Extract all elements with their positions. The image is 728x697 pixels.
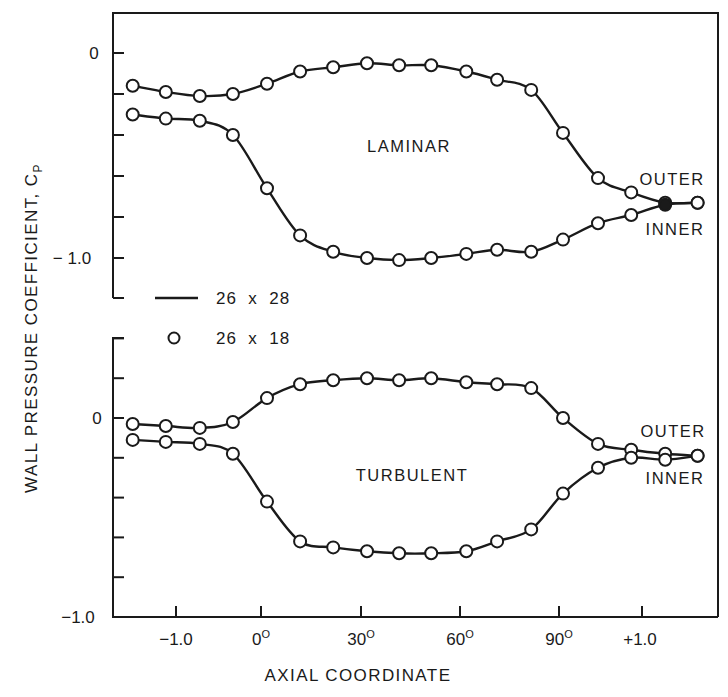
data-point-circle-icon — [160, 86, 172, 98]
bottom-y-label-neg1: −1.0 — [61, 608, 95, 627]
data-point-circle-icon — [659, 454, 671, 466]
top-y-ticks — [113, 53, 124, 258]
x-label-30deg: 30O — [347, 628, 375, 649]
turbulent-inner-curve — [133, 440, 698, 554]
legend-label-circle: 26 x 18 — [216, 329, 290, 348]
data-point-circle-icon — [194, 422, 206, 434]
data-point-circle-icon — [525, 382, 537, 394]
data-point-circle-icon — [327, 61, 339, 73]
data-point-circle-icon — [327, 246, 339, 258]
bottom-outer-label: OUTER — [640, 422, 705, 440]
data-point-circle-icon — [393, 59, 405, 71]
data-point-circle-icon — [425, 372, 437, 384]
bottom-y-ticks — [113, 338, 124, 617]
chart: 0 − 1.0 0 −1.0 −1.0 0O 30O 60O 90O +1.0 … — [0, 0, 728, 697]
data-point-circle-icon — [557, 127, 569, 139]
top-panel-frame — [113, 13, 718, 617]
data-point-circle-icon — [592, 172, 604, 184]
x-ticks — [176, 606, 642, 617]
data-point-circle-icon — [491, 535, 503, 547]
data-point-circle-icon — [160, 113, 172, 125]
x-label-in-neg1: −1.0 — [159, 630, 193, 649]
laminar-label: LAMINAR — [367, 137, 451, 155]
data-point-circle-icon — [361, 372, 373, 384]
data-point-circle-icon — [625, 209, 637, 221]
top-inner-label: INNER — [646, 220, 705, 238]
bottom-y-label-0: 0 — [92, 409, 101, 428]
data-point-circle-icon — [460, 66, 472, 78]
data-point-circle-icon — [127, 109, 139, 121]
bottom-inner-label: INNER — [646, 469, 705, 487]
data-point-circle-icon — [261, 496, 273, 508]
data-point-circle-icon — [194, 115, 206, 127]
x-label-out-pos1: +1.0 — [623, 630, 657, 649]
legend: 26 x 28 26 x 18 — [155, 289, 290, 348]
data-point-circle-icon — [460, 248, 472, 260]
legend-label-line: 26 x 28 — [216, 289, 290, 308]
data-point-circle-icon — [261, 182, 273, 194]
data-point-circle-icon — [425, 59, 437, 71]
data-point-circle-icon — [261, 78, 273, 90]
data-point-circle-icon — [592, 438, 604, 450]
data-point-circle-icon — [327, 374, 339, 386]
series-layer — [127, 57, 704, 559]
x-axis-title: AXIAL COORDINATE — [265, 666, 452, 685]
data-point-circle-icon — [361, 545, 373, 557]
data-point-circle-icon — [127, 434, 139, 446]
laminar-outer-curve — [133, 63, 698, 203]
data-point-circle-icon — [460, 376, 472, 388]
data-point-circle-icon — [294, 229, 306, 241]
data-point-circle-icon — [227, 448, 239, 460]
data-point-circle-icon — [659, 199, 671, 211]
data-point-circle-icon — [361, 252, 373, 264]
data-point-circle-icon — [294, 378, 306, 390]
data-point-circle-icon — [557, 234, 569, 246]
data-point-circle-icon — [425, 547, 437, 559]
top-y-label-0: 0 — [89, 44, 98, 63]
data-point-circle-icon — [160, 420, 172, 432]
data-point-circle-icon — [592, 217, 604, 229]
data-point-circle-icon — [491, 244, 503, 256]
data-point-circle-icon — [525, 246, 537, 258]
data-point-circle-icon — [557, 488, 569, 500]
data-point-circle-icon — [327, 541, 339, 553]
turbulent-label: TURBULENT — [356, 466, 469, 484]
data-point-circle-icon — [625, 186, 637, 198]
y-axis-title: WALL PRESSURE COEFFICIENT, CP — [22, 163, 45, 493]
data-point-circle-icon — [194, 90, 206, 102]
data-point-circle-icon — [491, 74, 503, 86]
data-point-circle-icon — [525, 523, 537, 535]
data-point-circle-icon — [592, 462, 604, 474]
data-point-circle-icon — [393, 547, 405, 559]
legend-circle-icon — [169, 333, 180, 344]
data-point-circle-icon — [692, 197, 704, 209]
data-point-circle-icon — [393, 254, 405, 266]
top-outer-label: OUTER — [639, 170, 704, 188]
data-point-circle-icon — [557, 412, 569, 424]
data-point-circle-icon — [625, 452, 637, 464]
data-point-circle-icon — [194, 438, 206, 450]
data-point-circle-icon — [692, 450, 704, 462]
data-point-circle-icon — [127, 418, 139, 430]
data-point-circle-icon — [491, 378, 503, 390]
data-point-circle-icon — [294, 535, 306, 547]
x-label-0deg: 0O — [252, 628, 270, 649]
top-panel-border — [113, 13, 718, 617]
data-point-circle-icon — [227, 416, 239, 428]
top-y-label-neg1: − 1.0 — [53, 249, 91, 268]
data-point-circle-icon — [227, 88, 239, 100]
data-point-circle-icon — [227, 129, 239, 141]
data-point-circle-icon — [460, 545, 472, 557]
x-label-90deg: 90O — [545, 628, 573, 649]
data-point-circle-icon — [160, 436, 172, 448]
data-point-circle-icon — [261, 392, 273, 404]
x-label-60deg: 60O — [446, 628, 474, 649]
data-point-circle-icon — [425, 252, 437, 264]
data-point-circle-icon — [361, 57, 373, 69]
data-point-circle-icon — [127, 80, 139, 92]
data-point-circle-icon — [525, 84, 537, 96]
data-point-circle-icon — [294, 66, 306, 78]
turbulent-outer-curve — [133, 378, 698, 456]
data-point-circle-icon — [393, 374, 405, 386]
